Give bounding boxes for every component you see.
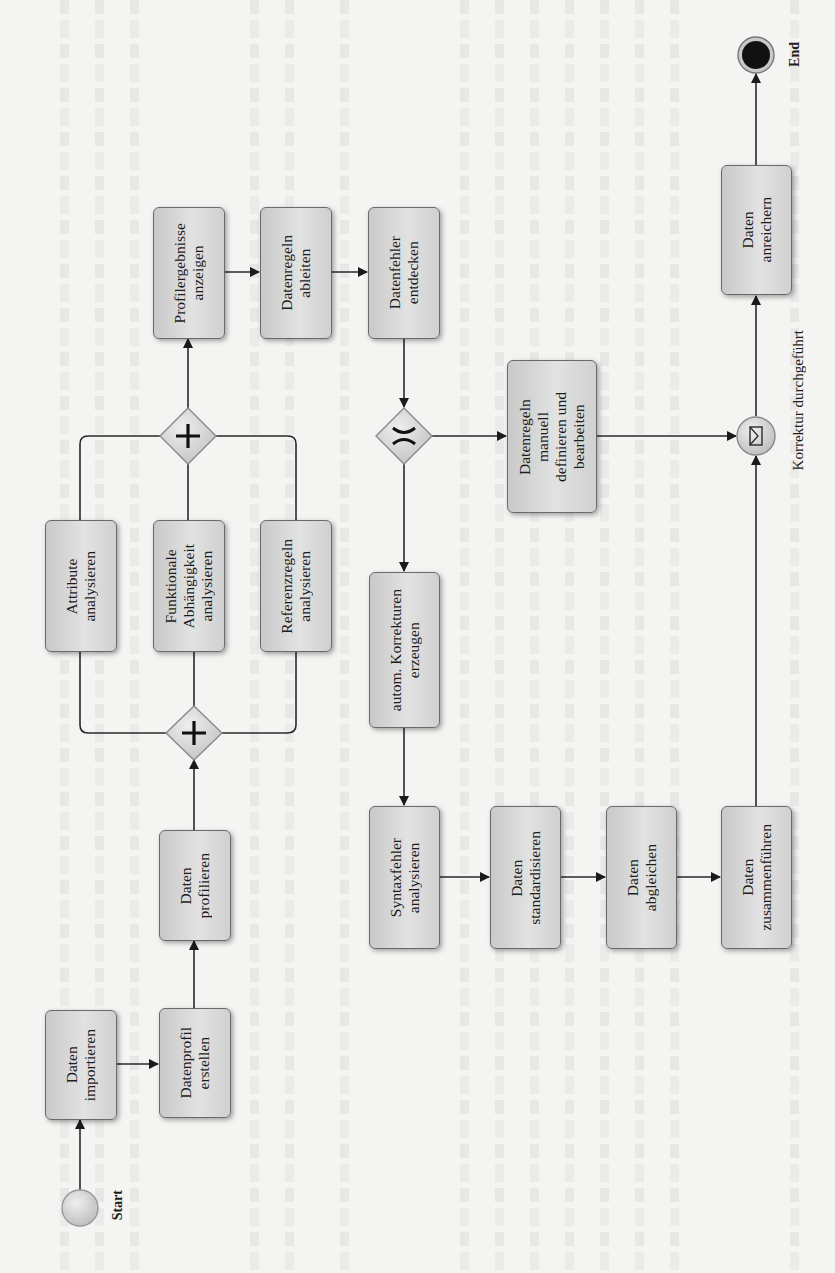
task-label: Datenfehler entdecken	[386, 236, 422, 309]
task-datenfehler-entdecken: Datenfehler entdecken	[368, 207, 440, 339]
task-label: Daten zusammenführen	[739, 824, 775, 931]
task-funktionale-abhaengigkeit: Funktionale Abhängigkeit analysieren	[153, 520, 225, 652]
task-datenregeln-ableiten: Datenregeln ableiten	[260, 207, 332, 339]
task-datenregeln-manuell: Datenregeln manuell definieren und bearb…	[507, 360, 597, 513]
task-daten-abgleichen: Daten abgleichen	[606, 806, 677, 949]
task-datenprofil-erstellen: Datenprofil erstellen	[159, 1008, 231, 1118]
start-label: Start	[110, 1190, 126, 1220]
task-label: Syntaxfehler analysieren	[387, 838, 423, 917]
task-label: Daten anreichern	[739, 197, 775, 262]
parallel-gateway-split	[160, 408, 216, 464]
task-autom-korrekturen: autom. Korrekturen erzeugen	[369, 572, 440, 728]
task-daten-zusammenfuehren: Daten zusammenführen	[721, 806, 792, 949]
task-profilergebnisse-anzeigen: Profilergebnisse anzeigen	[153, 207, 225, 339]
start-event	[62, 1190, 98, 1226]
end-event	[738, 37, 774, 73]
task-label: Attribute analysieren	[63, 551, 99, 622]
exclusive-gateway	[376, 408, 432, 464]
message-intermediate-event	[737, 417, 775, 455]
task-attribute-analysieren: Attribute analysieren	[45, 520, 117, 652]
task-syntaxfehler-analysieren: Syntaxfehler analysieren	[369, 806, 440, 949]
task-daten-standardisieren: Daten standardisieren	[490, 806, 561, 949]
end-label: End	[787, 42, 803, 67]
task-label: Daten profilieren	[177, 853, 213, 918]
task-label: autom. Korrekturen erzeugen	[387, 589, 423, 711]
task-daten-importieren: Daten importieren	[45, 1010, 117, 1120]
task-label: Datenregeln ableiten	[278, 235, 314, 311]
task-label: Datenregeln manuell definieren und bearb…	[516, 392, 588, 482]
task-referenzregeln-analysieren: Referenzregeln analysieren	[260, 520, 332, 652]
task-label: Daten standardisieren	[508, 831, 544, 925]
task-daten-profilieren: Daten profilieren	[159, 830, 231, 941]
task-label: Referenzregeln analysieren	[278, 539, 314, 634]
message-event-label: Korrektur durchgeführt	[790, 330, 807, 470]
task-daten-anreichern: Daten anreichern	[721, 165, 792, 295]
task-label: Profilergebnisse anzeigen	[171, 223, 207, 323]
task-label: Daten abgleichen	[624, 844, 660, 911]
task-label: Daten importieren	[63, 1029, 99, 1101]
task-label: Datenprofil erstellen	[177, 1027, 213, 1098]
parallel-gateway-join	[166, 706, 222, 760]
task-label: Funktionale Abhängigkeit analysieren	[162, 544, 216, 628]
